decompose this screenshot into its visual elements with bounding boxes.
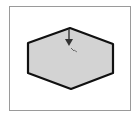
hexagon-shape[interactable]	[28, 28, 113, 89]
diagram-canvas[interactable]	[0, 0, 136, 117]
